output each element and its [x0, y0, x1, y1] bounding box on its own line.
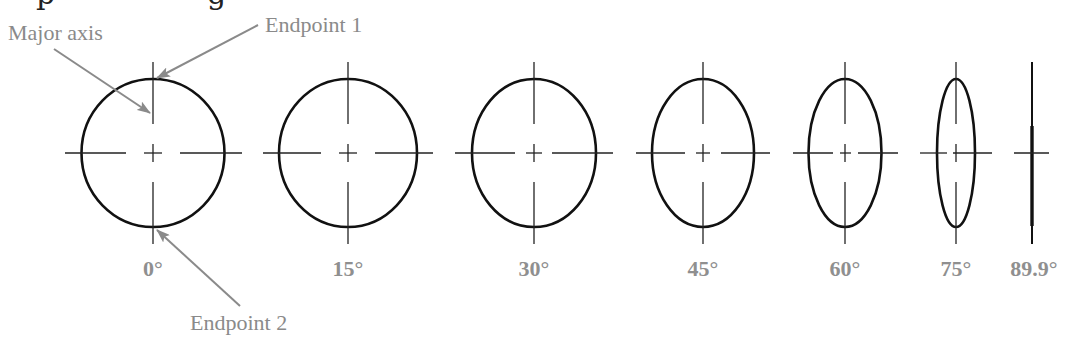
endpoint-2-label: Endpoint 2: [190, 310, 287, 335]
ellipse-75deg: [920, 62, 992, 244]
ellipse-angle-diagram: Major axis Endpoint 1 Endpoint 2 0° 15° …: [0, 0, 1072, 345]
ellipse-0deg: [65, 62, 242, 244]
angle-label-75: 75°: [941, 256, 972, 281]
endpoint-1-label: Endpoint 1: [265, 12, 362, 37]
ellipse-30deg: [455, 62, 613, 244]
endpoint-2-arrow-icon: [157, 230, 240, 306]
angle-label-15: 15°: [333, 256, 364, 281]
angle-label-60: 60°: [830, 256, 861, 281]
angle-label-0: 0°: [143, 256, 163, 281]
major-axis-label: Major axis: [8, 20, 103, 45]
angle-label-45: 45°: [688, 256, 719, 281]
endpoint-1-arrow-icon: [157, 25, 258, 78]
angle-label-30: 30°: [519, 256, 550, 281]
ellipse-60deg: [793, 62, 898, 244]
ellipse-45deg: [636, 62, 770, 244]
ellipse-15deg: [263, 62, 433, 244]
ellipse-89-9deg: [1014, 62, 1049, 244]
angle-label-89-9: 89.9°: [1010, 256, 1057, 281]
